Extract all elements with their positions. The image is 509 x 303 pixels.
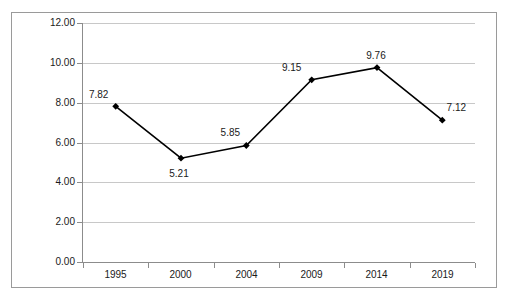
y-tick-label: 6.00 bbox=[23, 138, 75, 148]
x-tick-label: 2000 bbox=[148, 269, 213, 281]
x-tick-mark bbox=[344, 263, 345, 268]
y-tick-label: 12.00 bbox=[23, 18, 75, 28]
data-point-label: 7.12 bbox=[441, 102, 471, 113]
x-tick-mark bbox=[410, 263, 411, 268]
series-line bbox=[116, 68, 443, 159]
y-axis-tick-labels: 12.0010.008.006.004.002.000.00 bbox=[17, 13, 75, 289]
x-tick-label: 2009 bbox=[279, 269, 344, 281]
chart-frame: 12.0010.008.006.004.002.000.00 199520002… bbox=[11, 12, 497, 288]
y-tick-label: 0.00 bbox=[23, 257, 75, 267]
x-tick-mark bbox=[83, 263, 84, 268]
x-tick-mark bbox=[214, 263, 215, 268]
data-point-label: 5.21 bbox=[164, 168, 194, 179]
y-tick-label: 2.00 bbox=[23, 217, 75, 227]
y-tick-label: 10.00 bbox=[23, 58, 75, 68]
y-tick-label: 4.00 bbox=[23, 177, 75, 187]
data-point-label: 9.76 bbox=[361, 50, 391, 61]
x-tick-label: 1995 bbox=[83, 269, 148, 281]
data-point-label: 9.15 bbox=[277, 62, 307, 73]
line-series bbox=[83, 23, 475, 262]
x-tick-mark bbox=[475, 263, 476, 268]
data-point-label: 7.82 bbox=[84, 89, 114, 100]
x-tick-label: 2004 bbox=[214, 269, 279, 281]
x-tick-mark bbox=[148, 263, 149, 268]
x-tick-label: 2019 bbox=[410, 269, 475, 281]
data-point-label: 5.85 bbox=[215, 127, 245, 138]
y-tick-label: 8.00 bbox=[23, 98, 75, 108]
x-tick-mark bbox=[279, 263, 280, 268]
plot-area: 7.825.215.859.159.767.12 bbox=[83, 23, 475, 262]
x-tick-label: 2014 bbox=[344, 269, 409, 281]
